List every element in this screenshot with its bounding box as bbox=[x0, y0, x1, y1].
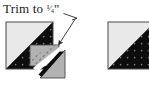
trim-arrow bbox=[59, 14, 78, 46]
diagram-canvas bbox=[0, 0, 149, 87]
before-trim-block bbox=[6, 22, 65, 78]
after-trim-block bbox=[108, 22, 149, 69]
quilting-trim-diagram: Trim to ¹⁄₄" bbox=[0, 0, 149, 87]
